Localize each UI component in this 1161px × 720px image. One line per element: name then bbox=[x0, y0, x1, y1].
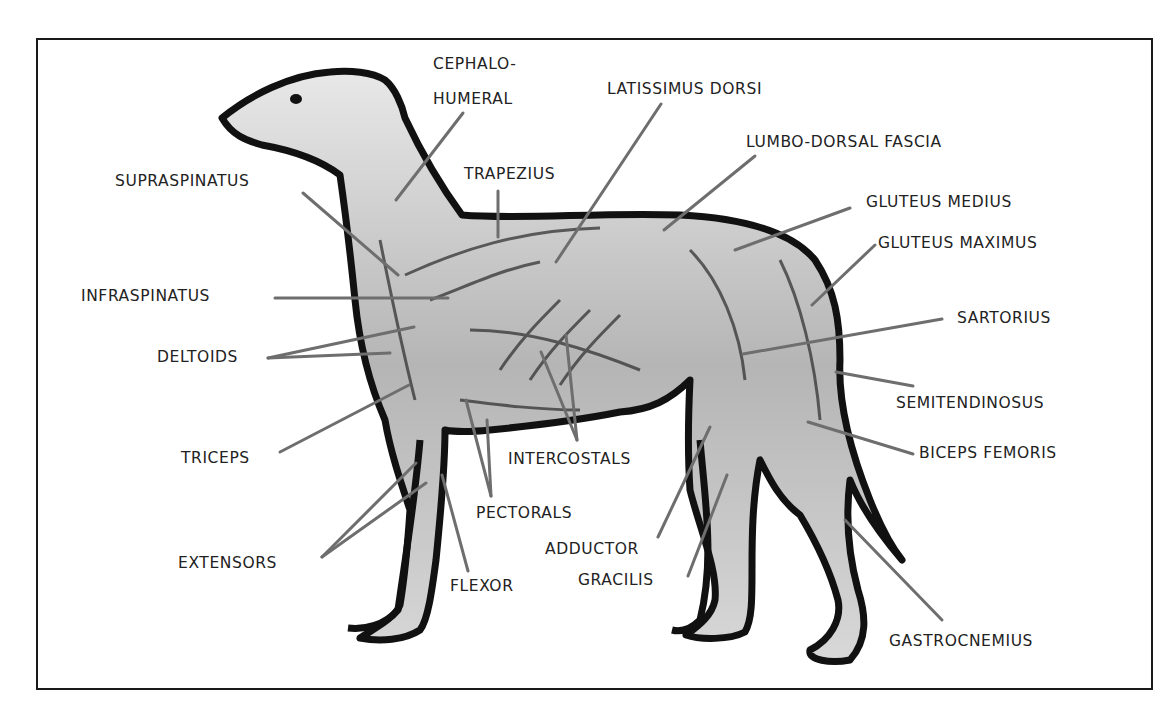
label-deltoids: DELTOIDS bbox=[157, 348, 238, 366]
label-supraspinatus: SUPRASPINATUS bbox=[115, 172, 249, 190]
label-flexor: FLEXOR bbox=[450, 577, 514, 595]
label-triceps: TRICEPS bbox=[181, 449, 250, 467]
label-cephalohumeral-line1: CEPHALO- bbox=[433, 55, 516, 73]
label-pectorals: PECTORALS bbox=[476, 504, 572, 522]
label-gluteus-maximus: GLUTEUS MAXIMUS bbox=[878, 234, 1037, 252]
label-cephalohumeral-line2: HUMERAL bbox=[433, 90, 513, 108]
label-trapezius: TRAPEZIUS bbox=[464, 165, 555, 183]
label-gastrocnemius: GASTROCNEMIUS bbox=[889, 632, 1033, 650]
label-biceps-femoris: BICEPS FEMORIS bbox=[919, 444, 1057, 462]
label-lumbo-dorsal-fascia: LUMBO-DORSAL FASCIA bbox=[746, 133, 942, 151]
dog-silhouette bbox=[222, 71, 902, 661]
label-extensors: EXTENSORS bbox=[178, 554, 277, 572]
label-latissimus-dorsi: LATISSIMUS DORSI bbox=[607, 80, 762, 98]
label-intercostals: INTERCOSTALS bbox=[508, 450, 631, 468]
label-adductor: ADDUCTOR bbox=[545, 540, 639, 558]
label-infraspinatus: INFRASPINATUS bbox=[81, 287, 210, 305]
label-sartorius: SARTORIUS bbox=[957, 309, 1051, 327]
label-semitendinosus: SEMITENDINOSUS bbox=[896, 394, 1044, 412]
label-gracilis: GRACILIS bbox=[578, 571, 654, 589]
dog-eye bbox=[290, 94, 302, 104]
label-gluteus-medius: GLUTEUS MEDIUS bbox=[866, 193, 1012, 211]
